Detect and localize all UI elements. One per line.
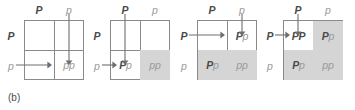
gamete-arrow-right	[189, 29, 227, 41]
row-header-allele-1: P	[2, 30, 20, 42]
column-header-allele-2: p	[313, 4, 343, 16]
punnett-square-1: PpPppp	[0, 0, 88, 95]
row-header-allele-2: p	[261, 60, 279, 72]
punnett-square-2: PpPpPppp	[86, 0, 174, 95]
punnett-cell-bottom-left: Pp	[284, 50, 314, 80]
punnett-cell-bottom-right: pp	[140, 50, 170, 80]
punnett-cell-bottom-right: pp	[227, 50, 257, 80]
gamete-arrow-right	[275, 29, 292, 41]
allele-symbol-recessive: p	[328, 59, 334, 71]
punnett-cell-bottom-right: pp	[313, 50, 343, 80]
punnett-square-4: PpPpPPPpPppp	[259, 0, 347, 95]
column-header-allele-2: p	[140, 4, 170, 16]
column-header-allele-1: P	[24, 4, 54, 16]
gamete-arrow-right	[16, 59, 54, 71]
punnett-square-3: PpPpPpPppp	[173, 0, 261, 95]
gamete-arrow-right	[102, 59, 119, 71]
gamete-arrow-down	[119, 14, 131, 67]
punnett-grid: pp	[24, 20, 84, 80]
punnett-cell-bottom-left: Pp	[198, 50, 228, 80]
gamete-arrow-down	[63, 14, 75, 67]
punnett-cell-top-left	[25, 21, 55, 51]
punnett-cell-top-right	[140, 21, 170, 51]
row-header-allele-1: P	[88, 30, 106, 42]
allele-symbol-dominant: P	[322, 30, 329, 42]
gamete-arrow-down	[292, 14, 304, 38]
punnett-square-figure: PpPpppPpPpPpppPpPpPpPpppPpPpPPPpPppp	[0, 0, 355, 110]
allele-symbol-recessive: p	[213, 59, 219, 71]
allele-symbol-recessive: p	[299, 59, 305, 71]
allele-symbol-recessive: p	[329, 30, 335, 42]
allele-symbol-recessive: p	[242, 59, 248, 71]
gamete-arrow-down	[236, 14, 248, 38]
allele-symbol-recessive: p	[155, 59, 161, 71]
column-header-allele-1: P	[197, 4, 227, 16]
row-header-allele-2: p	[175, 60, 193, 72]
figure-caption: (b)	[8, 92, 20, 103]
punnett-cell-top-right: Pp	[313, 21, 343, 51]
